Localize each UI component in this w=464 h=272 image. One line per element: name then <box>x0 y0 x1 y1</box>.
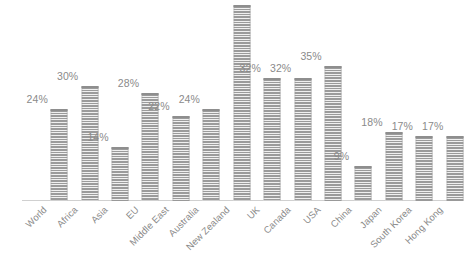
bar-top-cap <box>51 109 68 111</box>
bar-top-cap <box>355 166 372 168</box>
bar[interactable] <box>203 109 220 201</box>
bar-top-cap <box>203 109 220 111</box>
bar-value-label: 17% <box>422 120 443 132</box>
bar-value-label: 30% <box>57 70 78 82</box>
bar-top-cap <box>416 136 433 138</box>
bar[interactable] <box>233 5 250 201</box>
bar-slot <box>196 0 226 201</box>
bar-top-cap <box>233 5 250 7</box>
category-label: China <box>328 204 354 230</box>
bar-value-label: 9% <box>334 150 349 162</box>
category-label: Africa <box>54 204 79 229</box>
bar-slot <box>105 0 135 201</box>
category-label: USA <box>301 204 323 226</box>
bar-value-label: 17% <box>392 120 413 132</box>
bar-value-label: 18% <box>361 116 382 128</box>
bar-slot <box>318 0 348 201</box>
bar-value-label: 22% <box>148 100 169 112</box>
category-label: EU <box>123 204 140 221</box>
category-label: UK <box>245 204 262 221</box>
bar-slot <box>44 0 74 201</box>
bar-top-cap <box>385 132 402 134</box>
bar[interactable] <box>446 136 463 201</box>
bar-chart: 24%World30%Africa14%Asia28%EU22%Middle E… <box>0 0 464 272</box>
category-label: World <box>23 204 49 230</box>
bar-value-label: 32% <box>270 62 291 74</box>
bar-slot <box>409 0 439 201</box>
bar[interactable] <box>355 166 372 201</box>
category-label: Japan <box>357 204 383 230</box>
bar-top-cap <box>294 78 311 80</box>
bar[interactable] <box>325 66 342 201</box>
bar-top-cap <box>325 66 342 68</box>
bar-slot <box>227 0 257 201</box>
bar-top-cap <box>142 93 159 95</box>
bar[interactable] <box>81 86 98 202</box>
plot-area <box>22 0 448 201</box>
bar-top-cap <box>264 78 281 80</box>
bar-slot <box>348 0 378 201</box>
bar-slot <box>257 0 287 201</box>
bar-top-cap <box>81 86 98 88</box>
bar-value-label: 28% <box>118 77 139 89</box>
bar-slot <box>440 0 464 201</box>
bar[interactable] <box>294 78 311 201</box>
bar-value-label: 14% <box>87 131 108 143</box>
bar[interactable] <box>51 109 68 201</box>
bar[interactable] <box>172 116 189 201</box>
bar-value-label: 35% <box>300 50 321 62</box>
bar-value-label: 32% <box>240 62 261 74</box>
bar[interactable] <box>112 147 129 201</box>
bar-top-cap <box>172 116 189 118</box>
bar-slot <box>287 0 317 201</box>
category-label: Asia <box>89 204 110 225</box>
bar[interactable] <box>416 136 433 201</box>
bar-value-label: 24% <box>27 93 48 105</box>
bar[interactable] <box>385 132 402 201</box>
bar-slot <box>379 0 409 201</box>
bar[interactable] <box>264 78 281 201</box>
category-label: Canada <box>261 204 293 236</box>
bar-top-cap <box>112 147 129 149</box>
bar-top-cap <box>446 136 463 138</box>
bar-value-label: 24% <box>179 93 200 105</box>
bar-slot <box>74 0 104 201</box>
